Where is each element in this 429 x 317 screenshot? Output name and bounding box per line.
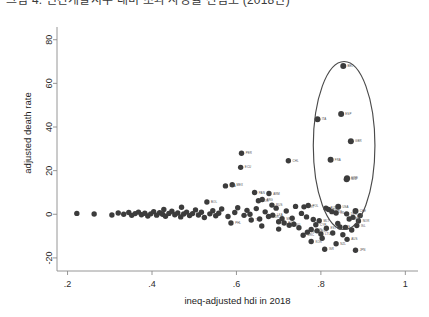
y-tick-label: -20 — [44, 251, 54, 264]
data-point — [262, 209, 267, 214]
data-point-label: AUS — [351, 237, 357, 241]
x-axis-title: ineq-adjusted hdi in 2018 — [184, 295, 290, 306]
data-point — [338, 111, 344, 117]
data-point — [300, 233, 305, 238]
data-points-layer: BELESPITAGBRFRASWENLDUSACHEPERCHLECUMEXB… — [74, 63, 369, 253]
x-axis-ticks: .2.4.6.81 — [64, 271, 408, 289]
data-point-label: MLT — [323, 219, 329, 223]
data-point — [340, 232, 345, 237]
data-point-label: MEX — [236, 183, 243, 187]
x-tick-label: 1 — [403, 279, 408, 289]
data-point — [291, 222, 296, 227]
data-point-label: ESP — [345, 112, 351, 116]
data-point — [289, 216, 294, 221]
data-point — [232, 210, 237, 215]
plot-axes — [57, 27, 418, 271]
data-point — [284, 208, 289, 213]
data-point-label: CYP — [320, 223, 326, 227]
data-point-label: FRA — [335, 158, 341, 162]
data-point — [286, 158, 291, 163]
data-point — [322, 246, 327, 251]
data-point — [311, 217, 316, 222]
data-point — [293, 204, 298, 209]
data-point — [74, 211, 79, 216]
data-point — [259, 223, 264, 228]
y-tick-label: 80 — [44, 35, 54, 45]
data-point — [328, 157, 334, 163]
data-point — [319, 236, 324, 241]
x-tick-label: .8 — [317, 279, 325, 289]
scatter-plot-canvas: .2.4.6.81 -20020406080 BELESPITAGBRFRASW… — [0, 9, 429, 317]
data-point-label: BOL — [211, 200, 217, 204]
data-point — [317, 218, 322, 223]
data-point — [247, 212, 252, 217]
data-point — [335, 221, 340, 226]
data-point — [179, 205, 184, 210]
data-point — [266, 191, 271, 196]
data-point — [301, 204, 306, 209]
data-point-label: COL — [263, 199, 270, 203]
data-point — [161, 207, 166, 212]
data-point — [333, 241, 338, 246]
data-point — [344, 211, 349, 216]
data-point — [109, 212, 114, 217]
data-point-label: PAN — [259, 191, 265, 195]
y-tick-label: 40 — [44, 122, 54, 132]
data-point-label: ECU — [245, 165, 251, 169]
data-point — [273, 205, 278, 210]
data-point — [225, 214, 230, 219]
data-point-label: ISR — [329, 247, 334, 251]
data-point — [276, 226, 281, 231]
data-point — [219, 206, 224, 211]
data-point-label: PRT — [308, 205, 314, 209]
data-point — [287, 222, 292, 227]
data-point-label: PER — [246, 151, 252, 155]
data-point — [353, 248, 358, 253]
data-point — [239, 150, 244, 155]
data-point — [276, 219, 281, 224]
data-point — [299, 211, 304, 216]
data-point — [296, 225, 301, 230]
data-point-label: PHL — [235, 221, 241, 225]
y-tick-label: 60 — [44, 78, 54, 88]
data-point — [121, 212, 126, 217]
data-point — [91, 211, 96, 216]
data-point — [210, 208, 215, 213]
data-point — [252, 190, 257, 195]
y-axis-title: adjusted death rate — [22, 92, 33, 173]
chart-figure: .2.4.6.81 -20020406080 BELESPITAGBRFRASW… — [0, 9, 429, 317]
data-point-label: NZL — [340, 242, 346, 246]
data-point — [270, 212, 275, 217]
data-point — [346, 216, 351, 221]
data-point — [235, 205, 240, 210]
data-point — [228, 220, 233, 225]
data-point-label: LKA — [277, 213, 283, 217]
y-axis-ticks: -20020406080 — [44, 35, 57, 265]
scatter-plot-figure-page: 그림 4. 인간개발지수 대비 초과 사망률 산점도 (2018년) .2.4.… — [0, 0, 429, 317]
figure-caption-text: 그림 4. 인간개발지수 대비 초과 사망률 산점도 (2018년) — [6, 0, 290, 7]
data-point — [254, 206, 259, 211]
data-point-label: GBR — [355, 139, 362, 143]
data-point — [348, 138, 354, 144]
x-tick-label: .4 — [148, 279, 156, 289]
data-point-label: NOR — [363, 219, 370, 223]
data-point — [330, 230, 335, 235]
data-point — [223, 183, 228, 188]
data-point-label: BRA — [230, 184, 236, 188]
data-point-label: JPN — [360, 248, 366, 252]
data-point — [241, 213, 246, 218]
data-point — [193, 207, 198, 212]
data-point-label: ITA — [322, 117, 327, 121]
data-point — [333, 210, 338, 215]
data-point — [238, 165, 243, 170]
data-point — [249, 217, 254, 222]
data-point — [199, 210, 204, 215]
data-point-label: CHL — [293, 159, 299, 163]
x-tick-label: .6 — [233, 279, 241, 289]
data-point — [204, 199, 209, 204]
data-point-label: LTU — [325, 232, 331, 236]
data-point — [256, 198, 261, 203]
y-tick-label: 0 — [44, 212, 54, 217]
data-point-label: ISL — [361, 224, 366, 228]
x-tick-label: .2 — [64, 279, 72, 289]
